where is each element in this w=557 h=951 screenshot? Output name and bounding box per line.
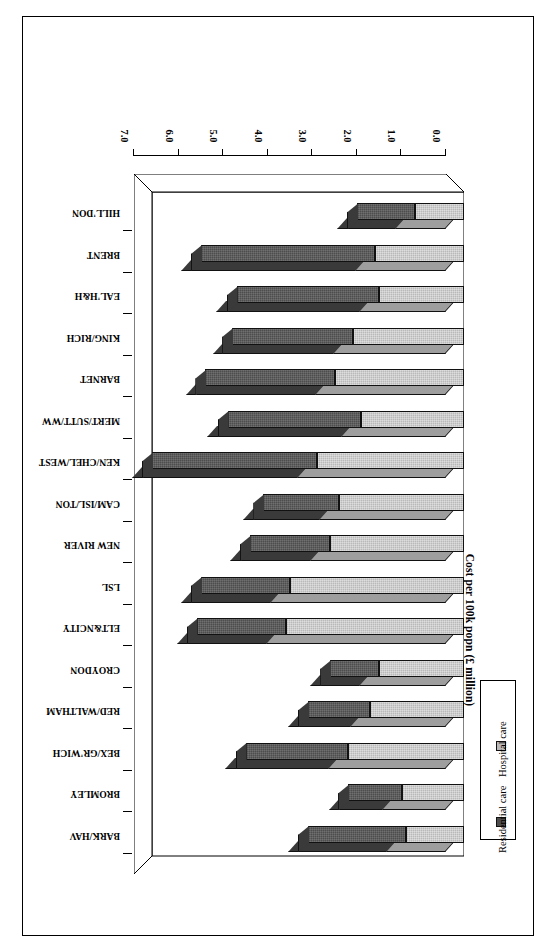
bar-group[interactable] — [152, 785, 464, 811]
category-tick-mark — [123, 646, 132, 647]
category-tick-mark — [123, 521, 132, 522]
category-tick-mark — [123, 604, 132, 605]
category-tick-mark — [123, 355, 132, 356]
category-tick-mark — [123, 438, 132, 439]
bar-segment-residential-care[interactable] — [330, 660, 379, 677]
value-tick-label: 3.0 — [298, 129, 309, 142]
bar-group[interactable] — [152, 660, 464, 686]
category-label: BROMLEY — [70, 790, 120, 801]
category-tick-mark — [123, 853, 132, 854]
category-label: RED/WALTHAM — [46, 707, 120, 718]
category-label: BARK/HAV — [70, 831, 120, 842]
category-label: KEN/CHEL/WEST — [39, 458, 120, 469]
category-tick-mark — [123, 397, 132, 398]
bar-segment-residential-care[interactable] — [308, 702, 370, 719]
bar-segment-hospital-care[interactable] — [335, 370, 464, 387]
value-tick-label: 5.0 — [209, 129, 220, 142]
chart-page: Cost per 100k popn (£ million) 0.01.02.0… — [0, 0, 557, 951]
bar-group[interactable] — [152, 577, 464, 603]
bar-group[interactable] — [152, 536, 464, 562]
bar-segment-residential-care[interactable] — [250, 536, 330, 553]
bar-segment-hospital-care[interactable] — [286, 619, 464, 636]
bar-segment-residential-care[interactable] — [348, 785, 401, 802]
bar-group[interactable] — [152, 370, 464, 396]
value-tick-label: 2.0 — [342, 129, 353, 142]
bar-segment-hospital-care[interactable] — [362, 411, 465, 428]
category-label: CROYDON — [70, 665, 120, 676]
bar-segment-residential-care[interactable] — [228, 411, 362, 428]
bar-segment-residential-care[interactable] — [263, 494, 339, 511]
bar-segment-hospital-care[interactable] — [402, 785, 464, 802]
category-tick-mark — [123, 480, 132, 481]
legend-label: Hospital care — [497, 701, 508, 777]
category-tick-mark — [123, 687, 132, 688]
three-d-backwall — [134, 174, 464, 874]
bar-group[interactable] — [152, 328, 464, 354]
bar-segment-hospital-care[interactable] — [339, 494, 464, 511]
bar-group[interactable] — [152, 245, 464, 271]
category-tick-mark — [123, 563, 132, 564]
bar-segment-residential-care[interactable] — [357, 204, 415, 221]
category-label: KING/RICH — [67, 333, 120, 344]
category-tick-mark — [123, 812, 132, 813]
category-tick-mark — [123, 272, 132, 273]
bar-segment-residential-care[interactable] — [152, 453, 317, 470]
chart-legend: Residential careHospital care — [480, 680, 516, 840]
bar-segment-hospital-care[interactable] — [290, 577, 464, 594]
bar-segment-hospital-care[interactable] — [330, 536, 464, 553]
bar-group[interactable] — [152, 204, 464, 230]
bar-segment-residential-care[interactable] — [308, 826, 406, 843]
value-tick-label: 0.0 — [431, 129, 442, 142]
bar-segment-hospital-care[interactable] — [415, 204, 464, 221]
value-axis-line — [134, 155, 446, 156]
category-label: ELT&NCITY — [63, 624, 120, 635]
category-label: EAL'H&H — [75, 292, 120, 303]
bar-segment-hospital-care[interactable] — [348, 743, 464, 760]
bar-group[interactable] — [152, 411, 464, 437]
value-tick-label: 7.0 — [119, 129, 130, 142]
bar-segment-residential-care[interactable] — [232, 328, 352, 345]
bar-segment-hospital-care[interactable] — [375, 245, 464, 262]
bar-segment-residential-care[interactable] — [201, 245, 375, 262]
bar-segment-hospital-care[interactable] — [379, 287, 464, 304]
category-label: MERT/SUTT/WW — [42, 416, 120, 427]
category-label: NEW RIVER — [64, 541, 120, 552]
value-tick-label: 1.0 — [387, 129, 398, 142]
bar-group[interactable] — [152, 453, 464, 479]
plot-area: HILL'DONBRENTEAL'H&HKING/RICHBARNETMERT/… — [134, 174, 464, 874]
bar-segment-residential-care[interactable] — [237, 287, 380, 304]
value-tick-label: 4.0 — [253, 129, 264, 142]
category-tick-mark — [123, 770, 132, 771]
category-tick-mark — [123, 729, 132, 730]
category-tick-mark — [123, 231, 132, 232]
category-label: BEX/GR'WICH — [53, 748, 120, 759]
legend-label: Residential care — [497, 777, 508, 853]
bar-segment-residential-care[interactable] — [197, 619, 286, 636]
value-axis-title: Cost per 100k popn (£ million) — [464, 480, 476, 780]
bar-segment-residential-care[interactable] — [201, 577, 290, 594]
bar-segment-hospital-care[interactable] — [406, 826, 464, 843]
category-tick-mark — [123, 314, 132, 315]
category-label: BARNET — [80, 375, 120, 386]
category-label: HILL'DON — [72, 209, 120, 220]
bar-segment-hospital-care[interactable] — [353, 328, 464, 345]
bar-segment-hospital-care[interactable] — [379, 660, 464, 677]
bar-segment-residential-care[interactable] — [206, 370, 335, 387]
bar-group[interactable] — [152, 826, 464, 852]
bar-segment-hospital-care[interactable] — [317, 453, 464, 470]
category-label: CAM/ISL/TON — [56, 499, 120, 510]
bar-group[interactable] — [152, 702, 464, 728]
bar-segment-residential-care[interactable] — [246, 743, 349, 760]
bar-group[interactable] — [152, 494, 464, 520]
bar-group[interactable] — [152, 287, 464, 313]
bar-group[interactable] — [152, 743, 464, 769]
bar-segment-hospital-care[interactable] — [370, 702, 464, 719]
bar-group[interactable] — [152, 619, 464, 645]
rotated-chart-container: Cost per 100k popn (£ million) 0.01.02.0… — [22, 16, 534, 936]
category-label: LSL — [102, 582, 120, 593]
value-tick-label: 6.0 — [164, 129, 175, 142]
legend-entry[interactable]: Hospital care — [481, 679, 515, 755]
category-label: BRENT — [87, 250, 120, 261]
bar-chart: Cost per 100k popn (£ million) 0.01.02.0… — [22, 16, 534, 936]
